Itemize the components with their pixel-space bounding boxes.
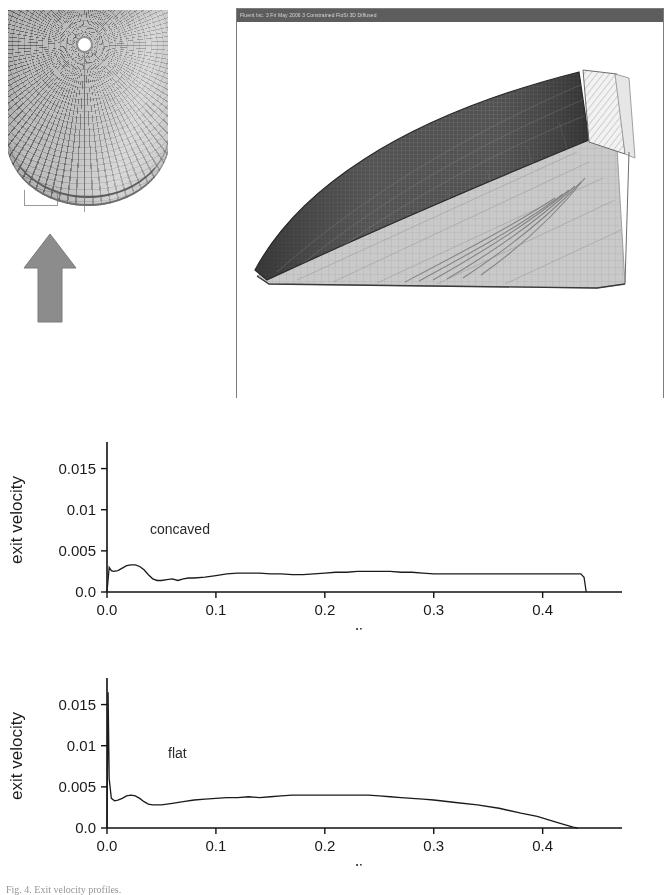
- cfd-3d-mesh-canvas: [237, 22, 663, 398]
- y-tick-label: 0.01: [67, 501, 96, 518]
- y-tick-label: 0.015: [58, 696, 96, 713]
- cfd-window-titlebar: Fluent Inc. 3 Fri May 2006 3 Constrained…: [237, 9, 663, 22]
- y-tick-label: 0.005: [58, 778, 96, 795]
- x-axis-title: radius: [334, 625, 380, 630]
- radial-mesh-disc: [8, 8, 168, 213]
- disc-center-hole: [76, 36, 93, 53]
- x-tick-label: 0.4: [532, 837, 553, 854]
- figure-caption: Fig. 4. Exit velocity profiles.: [6, 884, 426, 895]
- chart-exit-velocity-flat: 0.00.0050.010.0150.00.10.20.30.4exit vel…: [0, 636, 670, 866]
- x-tick-label: 0.2: [314, 601, 335, 618]
- x-tick-label: 0.3: [423, 601, 444, 618]
- disc-seam-line: [84, 44, 85, 212]
- x-tick-label: 0.4: [532, 601, 553, 618]
- chart-exit-velocity-concaved: 0.00.0050.010.0150.00.10.20.30.4exit vel…: [0, 418, 670, 630]
- disc-edge-notch: [24, 190, 58, 206]
- y-tick-label: 0.01: [67, 737, 96, 754]
- y-axis-title: exit velocity: [7, 476, 26, 564]
- y-axis-title: exit velocity: [7, 712, 26, 800]
- x-tick-label: 0.1: [205, 837, 226, 854]
- x-axis-title: radius: [334, 861, 380, 866]
- series-annotation: flat: [168, 745, 187, 761]
- x-tick-label: 0.1: [205, 601, 226, 618]
- data-curve: [107, 565, 586, 592]
- y-tick-label: 0.015: [58, 460, 96, 477]
- y-tick-label: 0.0: [75, 583, 96, 600]
- y-tick-label: 0.0: [75, 819, 96, 836]
- x-tick-label: 0.2: [314, 837, 335, 854]
- x-tick-label: 0.3: [423, 837, 444, 854]
- y-tick-label: 0.005: [58, 542, 96, 559]
- radial-mesh-photo-panel: [8, 8, 168, 218]
- series-annotation: concaved: [150, 521, 210, 537]
- flow-direction-arrow-icon: [22, 232, 78, 324]
- x-tick-label: 0.0: [97, 837, 118, 854]
- x-tick-label: 0.0: [97, 601, 118, 618]
- cfd-mesh-window: Fluent Inc. 3 Fri May 2006 3 Constrained…: [236, 8, 664, 398]
